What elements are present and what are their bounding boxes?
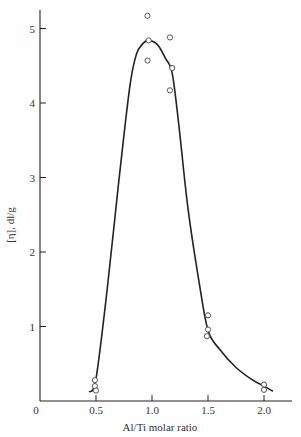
data-point-marker: [145, 13, 150, 18]
data-points: [92, 13, 266, 393]
data-point-marker: [261, 387, 266, 392]
y-axis-title: [η], dl/g: [4, 207, 16, 243]
data-point-marker: [170, 65, 175, 70]
y-tick-label: 1: [30, 321, 36, 333]
data-point-marker: [93, 388, 98, 393]
y-tick-label: 3: [30, 172, 36, 184]
x-tick-label: 1.0: [145, 404, 159, 416]
y-tick-label: 4: [30, 97, 36, 109]
y-tick-label: 2: [30, 246, 36, 258]
data-point-marker: [167, 88, 172, 93]
fitted-curve: [89, 40, 273, 392]
x-tick-label: 0.5: [89, 404, 103, 416]
y-tick-label: 5: [30, 23, 36, 35]
data-point-marker: [261, 382, 266, 387]
data-point-marker: [205, 327, 210, 332]
data-point-marker: [205, 313, 210, 318]
axes: [40, 10, 292, 401]
data-point-marker: [145, 58, 150, 63]
x-tick-label: 1.5: [201, 404, 215, 416]
data-point-marker: [92, 378, 97, 383]
x-tick-label: 2.0: [257, 404, 271, 416]
curve-path: [89, 40, 273, 392]
data-point-marker: [167, 35, 172, 40]
origin-label: 0: [33, 404, 39, 416]
data-point-marker: [146, 38, 151, 43]
chart-canvas: 0.51.01.52.012345 Al/Ti molar ratio [η],…: [0, 0, 301, 437]
data-point-marker: [204, 334, 209, 339]
ticks: 0.51.01.52.012345: [30, 23, 272, 417]
x-axis-title: Al/Ti molar ratio: [123, 421, 198, 433]
